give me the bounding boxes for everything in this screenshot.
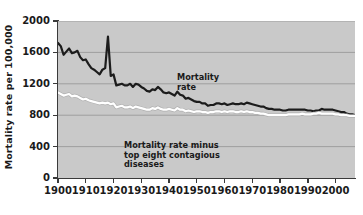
- annotation-mortality-rate: Mortality rate: [177, 73, 219, 92]
- y-tick-label: 0: [4, 173, 50, 183]
- y-tick-label: 800: [4, 110, 50, 120]
- x-tick-label: 2000: [316, 185, 356, 196]
- y-tick-label: 400: [4, 142, 50, 152]
- y-tick-label: 1600: [4, 47, 50, 57]
- y-tick-label: 2000: [4, 16, 50, 26]
- y-tick-mark: [53, 146, 57, 147]
- y-axis-title: Mortality rate per 100,000: [2, 2, 16, 192]
- x-tick-mark: [279, 179, 280, 183]
- y-tick-mark: [53, 83, 57, 84]
- x-tick-mark: [335, 179, 336, 183]
- annotation-minus-contagious: Mortality rate minus top eight contagiou…: [124, 141, 220, 170]
- x-tick-mark: [252, 179, 253, 183]
- x-tick-mark: [85, 179, 86, 183]
- x-tick-mark: [57, 179, 58, 183]
- y-tick-mark: [53, 115, 57, 116]
- x-tick-mark: [168, 179, 169, 183]
- x-tick-mark: [307, 179, 308, 183]
- y-tick-mark: [53, 177, 57, 178]
- chart-figure: Mortality rate per 100,000 Mortality rat…: [0, 0, 363, 215]
- x-tick-mark: [141, 179, 142, 183]
- y-tick-label: 1200: [4, 79, 50, 89]
- x-tick-mark: [113, 179, 114, 183]
- y-tick-mark: [53, 52, 57, 53]
- y-tick-mark: [53, 20, 57, 21]
- x-tick-mark: [224, 179, 225, 183]
- plot-area: Mortality rate Mortality rate minus top …: [58, 21, 355, 178]
- x-tick-mark: [196, 179, 197, 183]
